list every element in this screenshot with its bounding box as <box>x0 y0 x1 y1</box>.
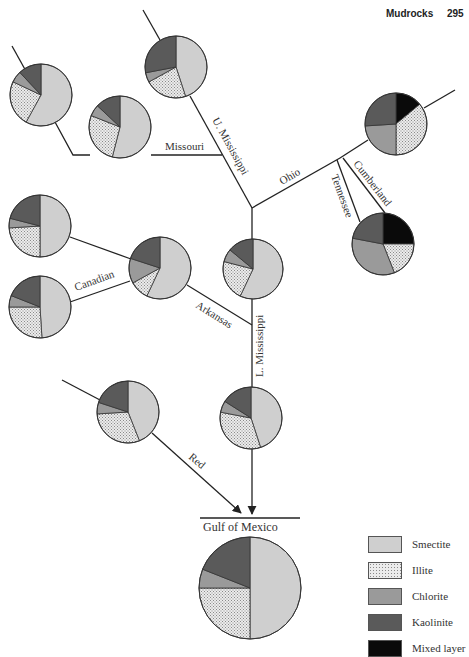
slice-smectite <box>40 276 71 338</box>
label-l-mississippi: L. Mississippi <box>253 315 265 377</box>
pie-arkansas <box>129 237 191 299</box>
ohio-headwater-line <box>424 90 455 108</box>
slice-smectite <box>250 537 301 639</box>
missouri-upper-line <box>55 122 90 155</box>
slice-illite <box>199 588 250 639</box>
pie-missouri <box>89 96 151 158</box>
u-mississippi-line <box>190 96 252 208</box>
u-mississippi-headwater-line <box>143 10 160 40</box>
pie-tennessee-cumberland <box>352 213 414 275</box>
label-arkansas: Arkansas <box>194 299 235 331</box>
label-tennessee: Tennessee <box>329 173 356 220</box>
gulf-of-mexico-label: Gulf of Mexico <box>203 520 278 535</box>
pie-arkansas-headwater <box>9 195 71 257</box>
slice-smectite <box>40 195 71 257</box>
slice-kaolinite <box>353 213 383 244</box>
slice-kaolinite <box>145 36 176 73</box>
label-canadian: Canadian <box>73 267 117 293</box>
ohio-mid-line <box>340 140 368 158</box>
label-u-mississippi: U. Mississippi <box>210 115 251 176</box>
swatch-chlorite <box>368 588 402 605</box>
slice-kaolinite <box>365 93 396 126</box>
red-headwater-line <box>62 380 100 400</box>
pie-upper-mississippi <box>145 36 207 98</box>
legend: Smectite Illite Chlorite Kaolinite Mixed… <box>368 531 465 657</box>
label-ohio: Ohio <box>277 165 302 187</box>
pie-red <box>97 381 159 443</box>
arkansas-upper-line <box>70 237 131 259</box>
swatch-smectite <box>368 536 402 553</box>
legend-item-smectite: Smectite <box>368 531 465 557</box>
pie-ohio <box>365 93 427 155</box>
slice-illite <box>9 307 42 338</box>
swatch-mixed-layer <box>368 640 402 657</box>
pie-gulf-of-mexico <box>199 537 301 639</box>
label-missouri: Missouri <box>165 140 204 152</box>
pie-lower-mississippi <box>220 387 282 449</box>
swatch-kaolinite <box>368 614 402 631</box>
label-red: Red <box>187 450 209 471</box>
legend-item-mixed-layer: Mixed layer <box>368 635 465 657</box>
pie-canadian <box>9 276 71 338</box>
red-arrow <box>152 433 241 513</box>
pie-missouri-headwater <box>10 64 72 126</box>
legend-item-kaolinite: Kaolinite <box>368 609 465 635</box>
legend-item-illite: Illite <box>368 557 465 583</box>
pie-mississippi-mid <box>223 239 283 299</box>
legend-item-chlorite: Chlorite <box>368 583 465 609</box>
swatch-illite <box>368 562 402 579</box>
label-cumberland: Cumberland <box>351 158 394 209</box>
